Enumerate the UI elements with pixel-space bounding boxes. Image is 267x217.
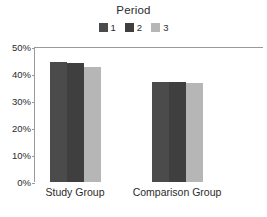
x-axis-tick-label: Comparison Group [133, 186, 222, 198]
y-axis-tick-label: 20% [0, 123, 31, 134]
bar-1[interactable] [152, 82, 169, 182]
legend-swatch-period-3 [151, 23, 160, 32]
legend-entry[interactable]: 2 [125, 23, 142, 32]
x-axis-labels: Study GroupComparison Group [35, 186, 263, 204]
legend-swatch-period-2 [125, 23, 134, 32]
bar-2[interactable] [169, 82, 186, 182]
bar-1[interactable] [50, 62, 67, 182]
legend-entry[interactable]: 1 [99, 23, 116, 32]
legend-label: 1 [111, 23, 116, 32]
chart-legend: 123 [0, 23, 267, 32]
bar-group [50, 47, 101, 182]
legend-entry[interactable]: 3 [151, 23, 168, 32]
legend-label: 3 [163, 23, 168, 32]
x-axis-tick-label: Study Group [46, 186, 105, 198]
bars-layer [35, 47, 263, 182]
y-axis-tick-label: 10% [0, 150, 31, 161]
y-axis-tick-label: 0% [0, 177, 31, 188]
bar-3[interactable] [84, 67, 101, 182]
legend-swatch-period-1 [99, 23, 108, 32]
y-axis-tick-label: 30% [0, 96, 31, 107]
y-axis-tick-mark [32, 183, 35, 184]
y-axis-tick-label: 50% [0, 42, 31, 53]
chart-title: Period [0, 4, 267, 16]
bar-group [152, 47, 203, 182]
y-axis-labels: 0%10%20%30%40%50% [0, 47, 31, 182]
y-axis-tick-label: 40% [0, 69, 31, 80]
bar-3[interactable] [186, 83, 203, 182]
legend-label: 2 [137, 23, 142, 32]
bar-2[interactable] [67, 63, 84, 182]
bar-chart: Period 123 0%10%20%30%40%50% Study Group… [0, 0, 267, 217]
